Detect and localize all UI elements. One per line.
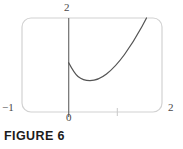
y-axis-max-label: 2 [64, 2, 70, 13]
x-axis-max-label: 2 [168, 102, 174, 113]
graphing-window: 2 −1 0 2 [0, 0, 183, 126]
x-axis-min-label: −1 [2, 102, 14, 113]
graph-canvas [0, 0, 183, 126]
figure-caption: FIGURE 6 [4, 129, 65, 143]
viewing-window-frame [22, 18, 162, 112]
plotted-curve [69, 18, 147, 81]
figure-6: 2 −1 0 2 FIGURE 6 [0, 0, 183, 149]
origin-label: 0 [66, 112, 72, 123]
